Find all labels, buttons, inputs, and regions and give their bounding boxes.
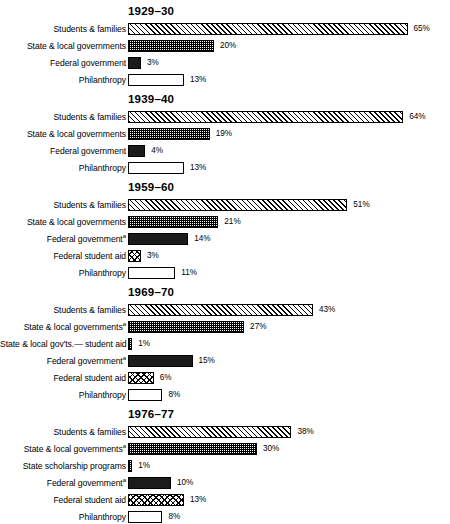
bar-row-label: Students & families <box>0 200 128 210</box>
bar-row-label-text: Philanthropy <box>79 163 126 173</box>
bar-row-label: State & local governmentsa <box>0 322 128 332</box>
bar-row-label-text: Students & families <box>53 305 126 315</box>
panel-rows: Students & families65%State & local gove… <box>0 22 450 87</box>
bar-track: 1% <box>128 337 450 351</box>
bar-value-label: 30% <box>263 444 279 454</box>
bar-value-label: 38% <box>297 427 313 437</box>
bar <box>128 426 291 438</box>
bar <box>128 443 257 455</box>
bar-track: 14% <box>128 232 450 246</box>
panel-title: 1939–40 <box>128 92 450 107</box>
bar-row-label: Federal governmenta <box>0 234 128 244</box>
bar-row-label-text: State & local governments <box>27 129 126 139</box>
bar-row-label-text: Students & families <box>53 24 126 34</box>
bar <box>128 233 188 245</box>
chart-panel: 1959–60Students & families51%State & loc… <box>0 180 450 280</box>
bar <box>128 216 218 228</box>
bar <box>128 511 162 523</box>
bar-row-label-text: State & local governments <box>24 444 123 454</box>
bar-row-label-text: Philanthropy <box>79 512 126 522</box>
bar-value-label: 6% <box>160 373 172 383</box>
bar-track: 30% <box>128 442 450 456</box>
bar-row: Students & families43% <box>0 303 450 317</box>
bar-value-label: 13% <box>190 495 206 505</box>
bar-value-label: 51% <box>353 200 369 210</box>
bar-row: State scholarship programs1% <box>0 459 450 473</box>
bar-row-label: Philanthropy <box>0 163 128 173</box>
bar <box>128 304 313 316</box>
bar-row-label-text: Federal government <box>47 356 123 366</box>
bar-row: State & local governments20% <box>0 39 450 53</box>
footnote-marker: a <box>123 477 126 483</box>
bar <box>128 477 171 489</box>
bar-row-label-text: Philanthropy <box>79 390 126 400</box>
bar-row-label: Federal governmenta <box>0 356 128 366</box>
bar-value-label: 20% <box>220 41 236 51</box>
panel-title: 1929–30 <box>128 4 450 19</box>
bar-row: State & local governmentsa27% <box>0 320 450 334</box>
bar-row-label-text: State scholarship programs <box>23 461 126 471</box>
bar-row-label: Philanthropy <box>0 268 128 278</box>
chart-panel: 1929–30Students & families65%State & loc… <box>0 4 450 87</box>
bar <box>128 74 184 86</box>
bar-row: Students & families65% <box>0 22 450 36</box>
bar-row-label: Students & families <box>0 24 128 34</box>
panel-title: 1969–70 <box>128 285 450 300</box>
bar <box>128 338 132 350</box>
panel-title: 1959–60 <box>128 180 450 195</box>
bar-track: 6% <box>128 371 450 385</box>
bar-row: Federal governmenta10% <box>0 476 450 490</box>
bar-row-label: Philanthropy <box>0 75 128 85</box>
bar <box>128 128 210 140</box>
bar-row-label: State & local governments <box>0 217 128 227</box>
bar-track: 64% <box>128 110 450 124</box>
footnote-marker: a <box>123 321 126 327</box>
bar-value-label: 10% <box>177 478 193 488</box>
bar-track: 21% <box>128 215 450 229</box>
bar-track: 38% <box>128 425 450 439</box>
bar-row-label-text: Federal government <box>47 234 123 244</box>
bar-row-label-text: State & local gov'ts.— student aid <box>0 339 127 349</box>
bar-row-label-text: Students & families <box>53 200 126 210</box>
bar-value-label: 3% <box>147 251 159 261</box>
bar-value-label: 43% <box>319 305 335 315</box>
bar-row: Students & families38% <box>0 425 450 439</box>
bar <box>128 372 154 384</box>
bar <box>128 199 347 211</box>
bar-value-label: 21% <box>224 217 240 227</box>
bar-value-label: 1% <box>138 461 150 471</box>
panel-rows: Students & families38%State & local gove… <box>0 425 450 524</box>
bar-row-label-text: Philanthropy <box>79 75 126 85</box>
bar-row: State & local governments21% <box>0 215 450 229</box>
chart-panel: 1939–40Students & families64%State & loc… <box>0 92 450 175</box>
bar-track: 13% <box>128 493 450 507</box>
bar-row-label: Students & families <box>0 305 128 315</box>
bar-row: Federal student aid6% <box>0 371 450 385</box>
panel-rows: Students & families51%State & local gove… <box>0 198 450 280</box>
bar-row: State & local governmentsa30% <box>0 442 450 456</box>
bar-row: Students & families64% <box>0 110 450 124</box>
bar <box>128 145 145 157</box>
bar-row: Federal government3% <box>0 56 450 70</box>
bar-row-label-text: Philanthropy <box>79 268 126 278</box>
bar-track: 51% <box>128 198 450 212</box>
bar-row-label: State & local governments <box>0 129 128 139</box>
footnote-marker: a <box>123 233 126 239</box>
bar-row-label: Federal governmenta <box>0 478 128 488</box>
bar-track: 8% <box>128 510 450 524</box>
bar-row-label: Philanthropy <box>0 512 128 522</box>
bar-value-label: 15% <box>199 356 215 366</box>
bar-value-label: 1% <box>138 339 150 349</box>
bar-row-label-text: Federal government <box>47 478 123 488</box>
bar-row-label-text: State & local governments <box>27 217 126 227</box>
bar <box>128 111 403 123</box>
bar-track: 3% <box>128 56 450 70</box>
bar-value-label: 13% <box>190 75 206 85</box>
bar-value-label: 3% <box>147 58 159 68</box>
bar <box>128 267 175 279</box>
bar-track: 19% <box>128 127 450 141</box>
bar-row-label: State & local governmentsa <box>0 444 128 454</box>
bar-value-label: 64% <box>409 112 425 122</box>
bar-row-label: State & local governments <box>0 41 128 51</box>
panel-rows: Students & families43%State & local gove… <box>0 303 450 402</box>
